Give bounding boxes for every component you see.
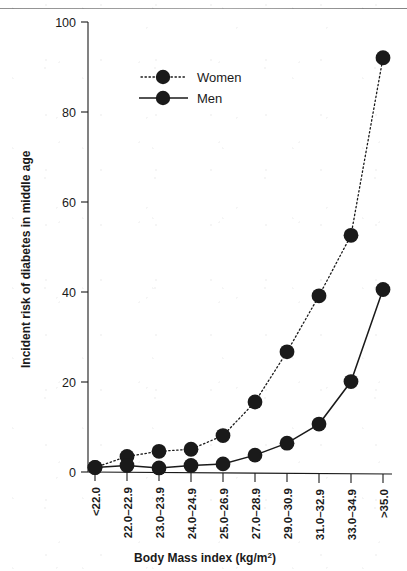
data-point — [344, 374, 359, 389]
data-point — [216, 428, 231, 443]
data-point — [152, 461, 167, 476]
x-tick-label: >35.0 — [378, 489, 390, 518]
data-point — [280, 344, 295, 359]
x-axis-title-close: ) — [272, 551, 276, 565]
y-tick-label: 60 — [62, 196, 76, 210]
x-tick-label: 27.0–28.9 — [250, 488, 262, 539]
legend-men-marker — [156, 91, 170, 105]
x-tick-label: 22.0–22.9 — [122, 487, 134, 538]
data-point — [248, 448, 263, 463]
data-point — [312, 288, 327, 303]
data-point — [248, 395, 263, 410]
men-line-path — [95, 290, 383, 468]
chart-legend: Women Men — [139, 70, 242, 106]
y-axis-title: Incident risk of diabetes in middle age — [19, 150, 33, 368]
data-point — [376, 282, 391, 297]
women-data-markers — [88, 50, 391, 475]
diabetes-risk-line-chart: 100 80 60 40 20 0 Incident risk of diabe… — [0, 0, 407, 571]
y-tick-label: 0 — [69, 466, 76, 480]
data-point — [376, 50, 391, 65]
y-axis-ticks — [81, 22, 88, 472]
legend-women-marker — [156, 70, 170, 84]
series-men — [88, 282, 391, 475]
svg-text:Body Mass index (kg/m2): Body Mass index (kg/m2) — [134, 551, 276, 565]
data-point — [88, 460, 103, 475]
legend-women-label: Women — [197, 70, 242, 85]
x-axis-title-base: Body Mass index (kg/m — [134, 551, 267, 565]
y-tick-label: 40 — [62, 286, 76, 300]
x-axis-line — [88, 472, 392, 474]
data-point — [184, 442, 199, 457]
x-axis-title: Body Mass index (kg/m2) — [134, 551, 276, 565]
x-tick-label: 31.0–32.9 — [314, 489, 326, 540]
x-tick-label: 24.0–24.9 — [186, 488, 198, 539]
legend-item-men[interactable]: Men — [139, 91, 222, 106]
y-tick-label: 20 — [62, 376, 76, 390]
series-women — [88, 50, 391, 475]
data-point — [152, 444, 167, 459]
x-tick-label: 23.0–23.9 — [154, 487, 166, 538]
x-tick-label: <22.0 — [90, 487, 102, 516]
data-point — [120, 458, 135, 473]
x-tick-label: 25.0–26.9 — [218, 488, 230, 539]
legend-item-women[interactable]: Women — [141, 70, 242, 85]
y-tick-label: 100 — [55, 16, 76, 30]
y-tick-label: 80 — [62, 106, 76, 120]
data-point — [184, 458, 199, 473]
men-data-markers — [88, 282, 391, 475]
women-line-path — [95, 58, 383, 468]
data-point — [216, 456, 231, 471]
data-point — [344, 228, 359, 243]
y-axis-tick-labels: 100 80 60 40 20 0 — [55, 16, 76, 480]
x-axis-tick-labels: <22.0 22.0–22.9 23.0–23.9 24.0–24.9 25.0… — [90, 487, 390, 540]
x-tick-label: 29.0–30.9 — [282, 488, 294, 539]
legend-men-label: Men — [197, 91, 222, 106]
data-point — [280, 436, 295, 451]
x-tick-label: 33.0–34.9 — [346, 489, 358, 540]
chart-figure: 100 80 60 40 20 0 Incident risk of diabe… — [0, 0, 407, 571]
data-point — [312, 417, 327, 432]
